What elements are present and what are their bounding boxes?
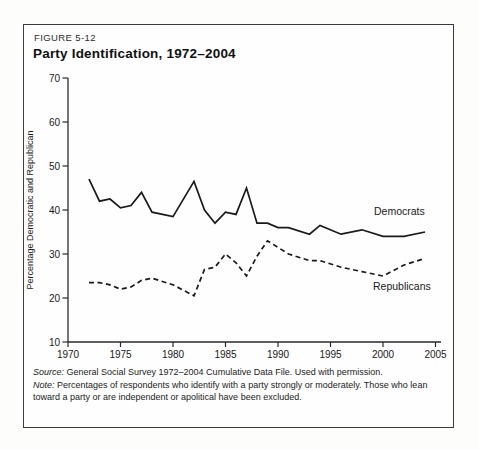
note-label: Note:: [33, 380, 55, 390]
note-text: Percentages of respondents who identify …: [33, 380, 427, 403]
y-axis-title: Percentage Democratic and Republican: [25, 130, 35, 289]
y-tick-label: 20: [49, 293, 61, 304]
series-label-democrats: Democrats: [374, 205, 425, 217]
figure-footnotes: Source: General Social Survey 1972–2004 …: [33, 366, 445, 404]
y-tick-label: 30: [49, 249, 61, 260]
source-note: Source: General Social Survey 1972–2004 …: [33, 366, 445, 379]
source-text: General Social Survey 1972–2004 Cumulati…: [64, 367, 383, 377]
y-tick-label: 40: [49, 205, 61, 216]
y-tick-label: 50: [49, 161, 61, 172]
figure-page: FIGURE 5-12 Party Identification, 1972–2…: [0, 0, 479, 450]
x-tick-label: 1985: [214, 349, 237, 360]
source-label: Source:: [33, 367, 64, 377]
x-tick-label: 2000: [372, 349, 395, 360]
y-tick-label: 70: [49, 73, 61, 84]
series-label-republicans: Republicans: [373, 280, 431, 292]
x-tick-label: 1970: [57, 349, 80, 360]
x-tick-label: 1975: [109, 349, 132, 360]
x-tick-label: 2005: [424, 349, 447, 360]
x-tick-label: 1980: [162, 349, 185, 360]
method-note: Note: Percentages of respondents who ide…: [33, 379, 445, 404]
x-tick-label: 1990: [267, 349, 290, 360]
y-tick-label: 10: [49, 337, 61, 348]
x-tick-label: 1995: [319, 349, 342, 360]
y-tick-label: 60: [49, 117, 61, 128]
